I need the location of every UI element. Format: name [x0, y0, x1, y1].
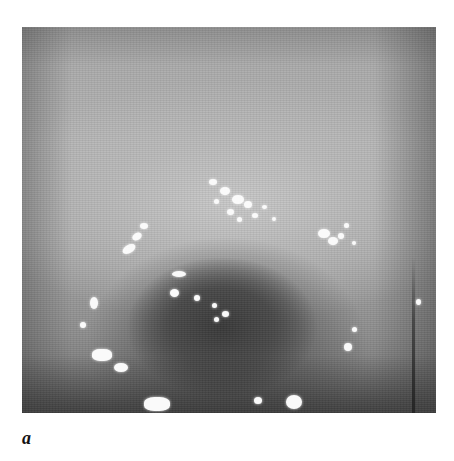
dark-vertical-fold [412, 257, 415, 413]
panel-label: a [22, 428, 31, 449]
film-grain [22, 27, 436, 413]
clinical-photograph [22, 27, 436, 413]
